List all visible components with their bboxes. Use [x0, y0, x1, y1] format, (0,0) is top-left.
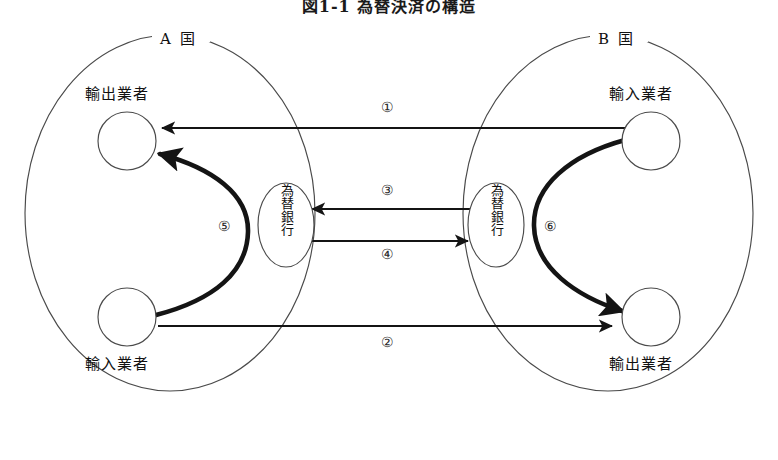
- country-b-label: B 国: [598, 27, 635, 48]
- actor-label-b-importer: 輸入業者: [609, 82, 673, 103]
- flow-marker-2: ②: [381, 334, 394, 350]
- country-a-label: A 国: [160, 27, 197, 48]
- figure-container: 図1-1 為替決済の構造: [0, 0, 778, 460]
- actor-circle-b-exporter: [622, 288, 680, 346]
- actor-label-b-exporter: 輸出業者: [609, 352, 673, 373]
- actor-label-a-importer: 輸入業者: [85, 352, 149, 373]
- flow-marker-1: ①: [381, 99, 394, 115]
- diagram-canvas: [0, 0, 778, 460]
- actor-circle-b-importer: [622, 112, 680, 170]
- flow-marker-3: ③: [381, 182, 394, 198]
- flow-marker-5: ⑤: [218, 218, 231, 234]
- flow-marker-6: ⑥: [544, 218, 557, 234]
- bank-label-a: 為替銀行: [280, 184, 293, 236]
- actor-circle-a-exporter: [98, 112, 156, 170]
- flow-marker-4: ④: [381, 246, 394, 262]
- bank-label-b: 為替銀行: [490, 184, 503, 236]
- actor-label-a-exporter: 輸出業者: [85, 82, 149, 103]
- actor-circle-a-importer: [98, 288, 156, 346]
